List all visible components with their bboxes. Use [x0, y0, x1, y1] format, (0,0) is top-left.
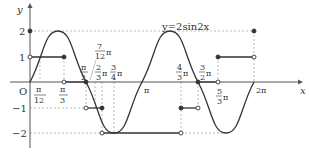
svg-text:3: 3: [111, 63, 116, 72]
svg-text:π: π: [102, 69, 107, 78]
y-tick-1: 1: [19, 52, 25, 63]
svg-text:2: 2: [200, 73, 205, 82]
svg-text:2π: 2π: [256, 86, 266, 95]
svg-text:π: π: [106, 48, 111, 57]
curve-label: y=2sin2x: [161, 21, 210, 32]
y-tick-neg2: −2: [12, 128, 27, 139]
x-tick-labels: π 12 π 3 π 2 7 12 π 2 3 π 3 4 π π 4 3 π …: [34, 42, 266, 106]
svg-text:5: 5: [217, 87, 222, 96]
svg-text:π: π: [81, 63, 86, 72]
svg-text:3: 3: [217, 97, 222, 106]
svg-text:π: π: [183, 69, 188, 78]
x-axis-arrow-icon: [298, 80, 303, 85]
svg-text:3: 3: [200, 63, 205, 72]
svg-text:π: π: [117, 69, 122, 78]
y-tick-neg1: −1: [12, 103, 27, 114]
x-axis-label: x: [300, 85, 306, 96]
y-tick-2: 2: [19, 26, 25, 37]
svg-text:2: 2: [81, 73, 86, 82]
svg-text:4: 4: [111, 73, 116, 82]
svg-text:12: 12: [34, 96, 44, 105]
y-axis-arrow-icon: [28, 3, 33, 8]
svg-text:12: 12: [95, 52, 105, 61]
svg-text:3: 3: [177, 73, 182, 82]
svg-text:π: π: [223, 93, 228, 102]
svg-text:4: 4: [177, 63, 182, 72]
graph: y x O y=2sin2x 2 1 −1 −2 π 12 π 3 π 2 7 …: [0, 0, 309, 155]
svg-text:π: π: [144, 86, 149, 95]
svg-text:π: π: [60, 85, 65, 94]
svg-text:π: π: [36, 85, 41, 94]
svg-text:2: 2: [96, 63, 101, 72]
y-axis-label: y: [16, 4, 23, 15]
svg-text:3: 3: [60, 96, 65, 105]
svg-text:π: π: [206, 69, 211, 78]
origin-label: O: [19, 86, 27, 97]
svg-text:3: 3: [96, 73, 101, 82]
svg-text:7: 7: [97, 42, 102, 51]
